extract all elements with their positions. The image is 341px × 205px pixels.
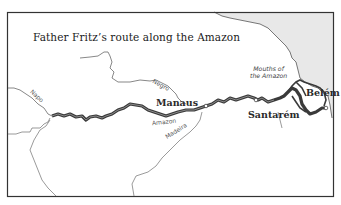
mouths-of-amazon-label: Mouths of the Amazon [250, 66, 287, 79]
tributary-southwest [30, 120, 56, 196]
tributary-west [8, 118, 50, 134]
map-title: Father Fritz’s route along the Amazon [33, 32, 240, 43]
map: Father Fritz’s route along the Amazon Ma… [0, 0, 341, 205]
city-manaus: Manaus [156, 98, 198, 108]
city-santarem: Santarém [248, 110, 300, 120]
city-belem: Belém [306, 88, 340, 98]
manaus-marker [204, 104, 208, 108]
belem-marker [324, 106, 328, 110]
santarem-marker [254, 98, 258, 102]
mouths-line-2: the Amazon [250, 73, 287, 80]
